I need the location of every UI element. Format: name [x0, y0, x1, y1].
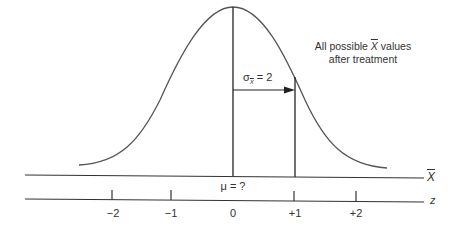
z-tick-label: +1	[289, 208, 302, 219]
caption-prefix: All possible	[315, 40, 371, 52]
z-tick-label: −1	[165, 208, 178, 219]
xbar-symbol: X	[371, 40, 378, 52]
z-axis-label: z	[430, 195, 436, 206]
caption-suffix: values	[378, 40, 411, 52]
sigma-label: σX = 2	[243, 72, 272, 85]
distribution-caption: All possible X values after treatment	[315, 40, 411, 65]
diagram-canvas	[0, 0, 457, 234]
z-tick-label: −2	[107, 208, 120, 219]
arrow-head-icon	[284, 87, 295, 94]
z-tick-label: +2	[350, 208, 363, 219]
caption-line-2: after treatment	[315, 53, 411, 66]
sigma-value: = 2	[254, 71, 273, 83]
sigma-symbol: σ	[243, 71, 250, 83]
mean-label: μ = ?	[221, 181, 246, 192]
z-axis-line	[25, 199, 424, 202]
xbar-axis-label: X	[427, 171, 435, 183]
xbar-axis-line	[25, 175, 424, 178]
z-tick-label: 0	[230, 208, 236, 219]
